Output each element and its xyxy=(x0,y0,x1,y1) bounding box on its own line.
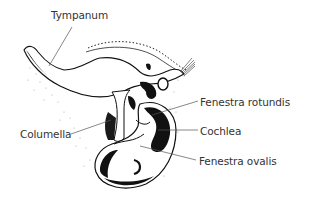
leader-columella xyxy=(71,120,111,134)
label-fenestra-ovalis: Fenestra ovalis xyxy=(199,156,277,167)
label-cochlea: Cochlea xyxy=(200,126,241,137)
leader-tympanum xyxy=(49,27,72,66)
label-tympanum: Tympanum xyxy=(51,10,108,21)
columella xyxy=(112,90,130,141)
label-fenestra-rotundis: Fenestra rotundis xyxy=(200,97,290,108)
label-columella: Columella xyxy=(20,129,71,140)
